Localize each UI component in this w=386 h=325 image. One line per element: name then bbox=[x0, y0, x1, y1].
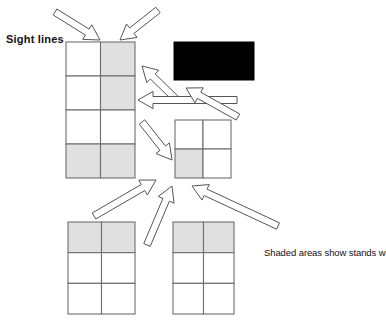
stand-block-lower-right bbox=[173, 222, 234, 314]
arrow-lower-left-to-left-block bbox=[92, 180, 156, 219]
stand-cell bbox=[173, 283, 204, 314]
stand-cell bbox=[66, 42, 101, 76]
stand-block-upper-left bbox=[66, 42, 135, 178]
sight-lines-label: Sight lines bbox=[6, 33, 64, 45]
stand-cell bbox=[203, 149, 231, 178]
arrow-left-block-to-middle-right bbox=[139, 120, 172, 160]
stand-cell bbox=[102, 253, 136, 284]
shaded-areas-caption: Shaded areas show stands with good sight… bbox=[264, 247, 384, 260]
stand-cell bbox=[203, 120, 231, 149]
stand-block-middle-right bbox=[175, 120, 231, 178]
stand-cell-shaded bbox=[173, 222, 204, 253]
stand-cell-shaded bbox=[66, 144, 101, 178]
stand-block-lower-left bbox=[68, 222, 135, 314]
stand-cell bbox=[66, 110, 101, 144]
stand-cell-shaded bbox=[101, 42, 136, 76]
stand-cell bbox=[68, 253, 102, 284]
stand-cell-shaded bbox=[102, 222, 136, 253]
stand-cell bbox=[68, 283, 102, 314]
stand-cell-shaded bbox=[175, 149, 203, 178]
stand-cell bbox=[173, 253, 204, 284]
stand-cell bbox=[204, 253, 235, 284]
arrow-top-right-inbound bbox=[120, 7, 160, 40]
stand-cell bbox=[66, 76, 101, 110]
stand-cell bbox=[102, 283, 136, 314]
diagram-canvas: Sight lines Shaded areas show stands wit… bbox=[0, 0, 386, 325]
arrow-lower-center-up bbox=[144, 186, 174, 246]
stand-cell-shaded bbox=[101, 144, 136, 178]
display-screen bbox=[174, 42, 254, 80]
stand-cell bbox=[204, 283, 235, 314]
stand-cell bbox=[175, 120, 203, 149]
stand-cell-shaded bbox=[68, 222, 102, 253]
sight-lines-diagram bbox=[0, 0, 386, 325]
stand-cell bbox=[101, 110, 136, 144]
stand-cell-shaded bbox=[204, 222, 235, 253]
stand-cell-shaded bbox=[101, 76, 136, 110]
